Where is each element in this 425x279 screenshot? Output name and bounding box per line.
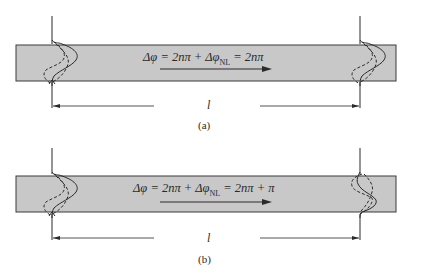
arrowhead-icon — [53, 104, 60, 108]
phase-equation-b: Δφ = 2nπ + ΔφNL = 2nπ + π — [133, 181, 275, 198]
arrowhead-icon — [352, 104, 359, 108]
equation-lhs: Δφ = 2nπ + Δφ — [143, 50, 219, 64]
equation-rhs: = 2nπ + π — [220, 181, 274, 195]
equation-subscript: NL — [219, 58, 230, 67]
length-label-a: l — [207, 98, 210, 113]
phase-equation-a: Δφ = 2nπ + ΔφNL = 2nπ — [143, 50, 264, 67]
equation-lhs: Δφ = 2nπ + Δφ — [133, 181, 209, 195]
length-label-b: l — [207, 231, 210, 246]
equation-subscript: NL — [209, 189, 220, 198]
caption-b: (b) — [198, 253, 211, 265]
arrowhead-icon — [352, 236, 359, 240]
caption-a: (a) — [198, 119, 210, 131]
equation-rhs: = 2nπ — [230, 50, 263, 64]
diagram-canvas — [0, 0, 425, 279]
arrowhead-icon — [53, 236, 60, 240]
